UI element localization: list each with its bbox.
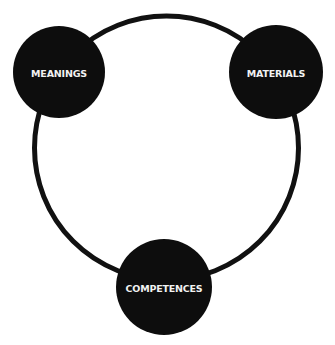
node-meanings: MEANINGS — [13, 26, 105, 118]
node-competences: COMPETENCES — [116, 239, 212, 335]
node-materials: MATERIALS — [229, 25, 323, 119]
materials-label: MATERIALS — [247, 68, 306, 79]
competences-label: COMPETENCES — [126, 283, 203, 294]
cycle-diagram: MEANINGS MATERIALS COMPETENCES — [0, 0, 335, 345]
meanings-label: MEANINGS — [31, 68, 87, 79]
